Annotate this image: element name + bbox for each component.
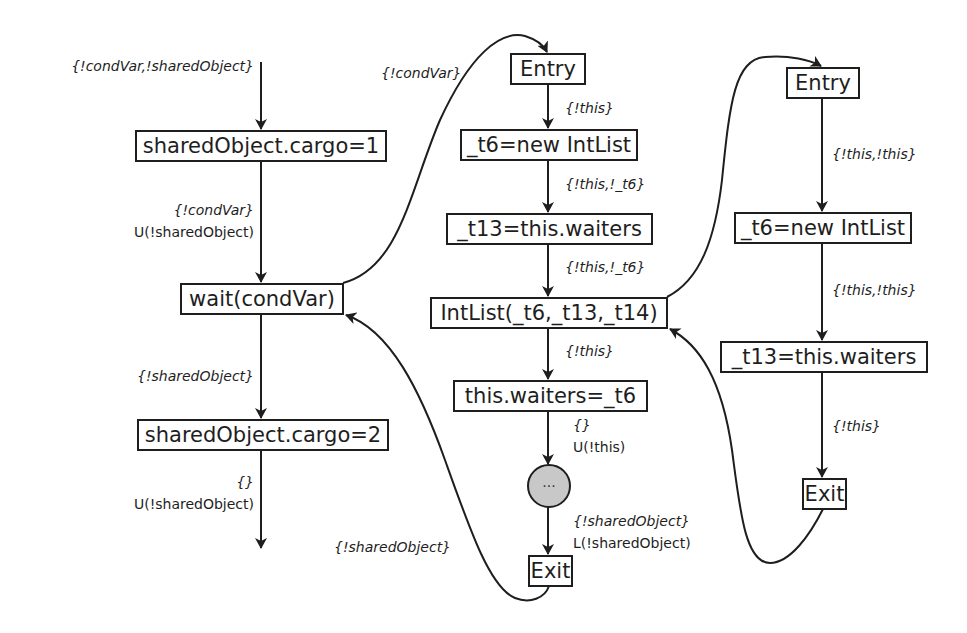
edge-label-call-condvar: {!condVar} — [381, 65, 461, 82]
node-shared-cargo-2[interactable]: sharedObject.cargo=2 — [137, 419, 389, 451]
edge-label-this-this: {!this,!this} — [832, 146, 917, 163]
node-t6-new-intlist[interactable]: _t6=new IntList — [460, 129, 638, 161]
edge-action-unlock-shared-2: U(!sharedObject) — [60, 496, 254, 513]
node-entry-middle[interactable]: Entry — [510, 53, 586, 85]
edge-label-this: {!this} — [565, 100, 614, 117]
edge-label-this-this-2: {!this,!this} — [832, 282, 917, 299]
edge-label-empty: {} — [150, 474, 254, 491]
edge-label-shared: {!sharedObject} — [80, 368, 254, 385]
control-flow-diagram: {!condVar,!sharedObject} sharedObject.ca… — [0, 0, 967, 633]
node-shared-cargo-1[interactable]: sharedObject.cargo=1 — [135, 130, 387, 162]
edge-label-this-right: {!this} — [832, 418, 881, 435]
node-right-t13-this-waiters[interactable]: _t13=this.waiters — [720, 341, 928, 373]
edge-label-empty-2: {} — [573, 417, 591, 434]
node-this-waiters-assign[interactable]: this.waiters=_t6 — [453, 380, 648, 412]
node-wait-condvar[interactable]: wait(condVar) — [180, 283, 344, 315]
edge-label-this-t6-2: {!this,!_t6} — [565, 259, 645, 276]
edge-return-curve — [346, 315, 549, 600]
edge-action-lock-shared: L(!sharedObject) — [573, 535, 691, 552]
edge-label-condvar: {!condVar} — [100, 202, 254, 219]
edge-label-return-shared: {!sharedObject} — [334, 539, 451, 556]
ellipsis-node[interactable]: ··· — [527, 464, 571, 508]
edge-action-unlock-this: U(!this) — [573, 439, 625, 456]
node-t13-this-waiters[interactable]: _t13=this.waiters — [446, 213, 653, 245]
edge-label-this-t6: {!this,!_t6} — [565, 176, 645, 193]
node-intlist-ctor-call[interactable]: IntList(_t6,_t13,_t14) — [430, 297, 668, 329]
edge-label-this-2: {!this} — [565, 343, 614, 360]
node-right-t6-new-intlist[interactable]: _t6=new IntList — [734, 212, 912, 244]
node-entry-right[interactable]: Entry — [786, 67, 860, 99]
node-exit-middle[interactable]: Exit — [528, 555, 573, 587]
edge-label-incoming: {!condVar,!sharedObject} — [40, 58, 254, 75]
edge-label-shared-2: {!sharedObject} — [573, 513, 690, 530]
node-exit-right[interactable]: Exit — [802, 478, 847, 510]
edge-action-unlock-shared: U(!sharedObject) — [60, 224, 254, 241]
